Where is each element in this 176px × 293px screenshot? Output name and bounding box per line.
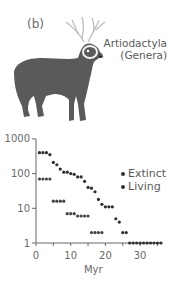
y-tick-label: 100: [11, 168, 30, 179]
data-point-extinct: [80, 175, 83, 178]
data-point-extinct: [156, 241, 159, 244]
data-point-extinct: [86, 186, 89, 189]
data-point-extinct: [93, 190, 96, 193]
data-point-living: [93, 231, 96, 234]
data-point-living: [69, 212, 72, 215]
x-tick-label: 0: [33, 250, 39, 261]
data-point-extinct: [107, 205, 110, 208]
data-point-extinct: [73, 173, 76, 176]
data-point-extinct: [104, 205, 107, 208]
data-point-extinct: [159, 241, 162, 244]
scatter-chart: 11010010000102030Myr: [0, 0, 176, 293]
data-point-extinct: [100, 203, 103, 206]
data-point-extinct: [135, 241, 138, 244]
data-point-extinct: [48, 153, 51, 156]
legend-label-living: Living: [128, 180, 161, 193]
data-point-living: [90, 231, 93, 234]
y-tick-label: 10: [17, 203, 30, 214]
legend-dot-icon: [121, 172, 125, 176]
x-tick-label: 20: [99, 250, 112, 261]
data-point-living: [55, 200, 58, 203]
data-point-extinct: [145, 241, 148, 244]
data-point-extinct: [114, 217, 117, 220]
data-point-extinct: [55, 163, 58, 166]
data-point-extinct: [41, 151, 44, 154]
legend-dot-icon: [121, 185, 125, 189]
data-point-living: [97, 231, 100, 234]
legend: Extinct Living: [121, 167, 166, 193]
data-point-living: [41, 177, 44, 180]
data-point-living: [62, 200, 65, 203]
data-point-extinct: [62, 171, 65, 174]
data-point-extinct: [52, 161, 55, 164]
data-point-living: [80, 214, 83, 217]
data-point-living: [86, 214, 89, 217]
legend-label-extinct: Extinct: [128, 167, 166, 180]
data-point-living: [48, 177, 51, 180]
data-point-extinct: [45, 151, 48, 154]
data-point-extinct: [125, 231, 128, 234]
data-point-extinct: [66, 171, 69, 174]
chart-points: [38, 151, 163, 244]
y-tick-label: 1000: [5, 133, 30, 144]
chart-labels: 11010010000102030Myr: [5, 133, 147, 275]
legend-item-extinct: Extinct: [121, 167, 166, 180]
x-axis-label: Myr: [84, 264, 104, 275]
data-point-extinct: [97, 198, 100, 201]
data-point-living: [100, 231, 103, 234]
data-point-living: [45, 177, 48, 180]
data-point-extinct: [83, 180, 86, 183]
data-point-extinct: [76, 175, 79, 178]
data-point-living: [66, 212, 69, 215]
data-point-living: [52, 200, 55, 203]
data-point-extinct: [69, 172, 72, 175]
data-point-extinct: [90, 187, 93, 190]
data-point-living: [83, 214, 86, 217]
data-point-extinct: [149, 241, 152, 244]
data-point-extinct: [152, 241, 155, 244]
data-point-living: [73, 212, 76, 215]
data-point-extinct: [111, 205, 114, 208]
data-point-extinct: [139, 241, 142, 244]
data-point-living: [38, 177, 41, 180]
data-point-extinct: [121, 231, 124, 234]
data-point-extinct: [59, 167, 62, 170]
legend-item-living: Living: [121, 180, 166, 193]
data-point-living: [76, 214, 79, 217]
data-point-extinct: [132, 241, 135, 244]
data-point-extinct: [118, 221, 121, 224]
data-point-extinct: [38, 151, 41, 154]
data-point-extinct: [128, 241, 131, 244]
data-point-extinct: [142, 241, 145, 244]
y-tick-label: 1: [24, 238, 30, 249]
x-tick-label: 30: [134, 250, 147, 261]
data-point-living: [59, 200, 62, 203]
x-tick-label: 10: [64, 250, 77, 261]
